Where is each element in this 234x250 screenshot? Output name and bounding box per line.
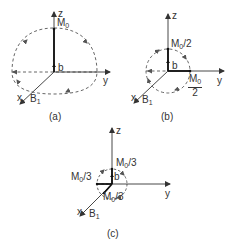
y-axis-label-c: y	[165, 189, 170, 199]
fraction-denominator-b: 2	[188, 88, 202, 98]
field-label-c: B1	[89, 209, 100, 222]
b-label-a: b	[58, 63, 64, 73]
y-axis-label-a: y	[103, 76, 108, 86]
b-arrow-a	[52, 64, 56, 67]
moment-subscript-a: 0	[65, 22, 69, 29]
caption-c: (c)	[107, 229, 119, 239]
panel-b	[134, 14, 224, 103]
bottom-suffix-c: /3	[115, 191, 123, 202]
fraction-numerator-b: M0	[188, 74, 202, 88]
moment-suffix-b: /2	[183, 38, 191, 49]
field-subscript-a: 1	[37, 98, 41, 105]
caption-a: (a)	[49, 112, 61, 122]
left-component-label-c: M0/3	[71, 172, 92, 185]
field-subscript-b: 1	[149, 99, 153, 106]
z-axis-label-c: z	[116, 126, 121, 136]
field-label-a: B1	[30, 94, 41, 107]
left-suffix-c: /3	[83, 171, 91, 182]
y-component-label-b: M0 2	[188, 74, 202, 98]
b-arrow-b	[166, 60, 170, 63]
y-axis-label-b: y	[217, 76, 222, 86]
fraction-num-sub-b: 0	[197, 78, 201, 85]
field-subscript-c: 1	[96, 213, 100, 220]
panel-c	[80, 128, 170, 216]
b-label-c: b	[114, 172, 120, 182]
field-symbol-a: B	[30, 93, 37, 104]
caption-b: (b)	[161, 112, 173, 122]
moment-label-b: M0/2	[171, 39, 192, 52]
field-symbol-b: B	[142, 94, 149, 105]
moment-label-c: M0/3	[116, 158, 137, 171]
moment-suffix-c: /3	[128, 157, 136, 168]
bottom-component-label-c: M0/3	[103, 192, 124, 205]
z-axis-label-b: z	[172, 11, 177, 21]
x-axis-label-a: x	[17, 93, 22, 103]
x-axis-label-c: x	[77, 207, 82, 217]
field-symbol-c: B	[89, 208, 96, 219]
moment-label-a: M0	[57, 18, 69, 31]
b-label-b: b	[172, 61, 178, 71]
field-label-b: B1	[142, 95, 153, 108]
x-axis-label-b: x	[131, 93, 136, 103]
